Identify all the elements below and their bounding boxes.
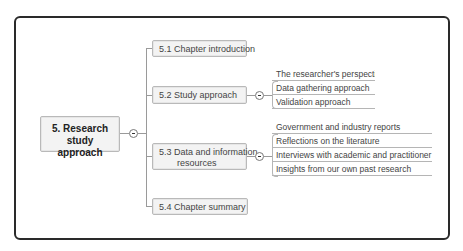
branch-node-5-1[interactable]: 5.1 Chapter introduction [152,40,247,57]
leaf-item[interactable]: Interviews with academic and practitione… [272,148,432,162]
root-label: 5. Research study approach [52,123,108,158]
branch-node-5-4[interactable]: 5.4 Chapter summary [152,198,248,215]
branch-node-5-2[interactable]: 5.2 Study approach [152,86,247,104]
leaf-label: Government and industry reports [276,122,400,132]
collapse-root-button[interactable] [129,129,138,138]
branch-label: 5.2 Study approach [159,90,237,100]
leaf-item[interactable]: Government and industry reports [272,120,432,134]
branch-label: 5.1 Chapter introduction [159,44,255,54]
connector [264,156,272,157]
leaf-label: Data gathering approach [276,83,370,93]
leaf-label: Reflections on the literature [276,136,379,146]
collapse-5-3-button[interactable] [255,152,264,161]
leaf-label: Insights from our own past research [276,164,411,174]
branch-node-5-3[interactable]: 5.3 Data and information resources [152,143,247,170]
connector [138,133,146,134]
leaf-label: The researcher's perspective [276,69,375,79]
root-node[interactable]: 5. Research study approach [40,116,120,152]
connector [264,95,272,96]
branch-label: 5.4 Chapter summary [159,202,246,212]
leaf-item[interactable]: Insights from our own past research [272,162,432,176]
collapse-5-2-button[interactable] [255,91,264,100]
leaf-item[interactable]: Validation approach [272,95,375,109]
leaf-item[interactable]: Reflections on the literature [272,134,432,148]
connector [247,95,255,96]
leaf-label: Interviews with academic and practitione… [276,150,432,160]
connector [120,133,129,134]
leaf-label: Validation approach [276,97,351,107]
connector [247,156,255,157]
branch-label: resources [159,158,240,169]
branch-label: 5.3 Data and information [159,147,240,158]
leaf-item[interactable]: Data gathering approach [272,81,375,95]
branch-spine [146,48,147,206]
leaf-item[interactable]: The researcher's perspective [272,67,375,81]
